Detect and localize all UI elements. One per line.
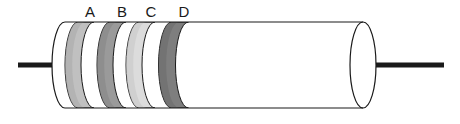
band-label-c: C bbox=[146, 3, 157, 20]
band-labels-group: ABCD bbox=[85, 3, 190, 20]
band-label-a: A bbox=[85, 3, 95, 20]
resistor-diagram-canvas: ABCD bbox=[0, 0, 460, 124]
resistor-diagram-svg: ABCD bbox=[0, 0, 460, 124]
band-label-b: B bbox=[117, 3, 127, 20]
band-label-d: D bbox=[179, 3, 190, 20]
